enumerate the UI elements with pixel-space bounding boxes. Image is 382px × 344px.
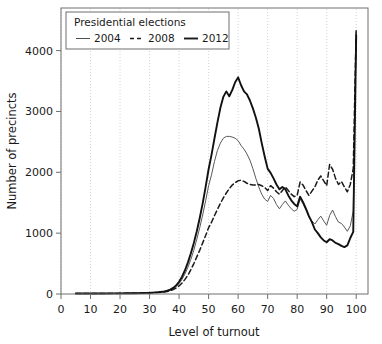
chart-figure: 0102030405060708090100 01000200030004000… bbox=[0, 0, 382, 344]
x-tick-label-100: 100 bbox=[346, 303, 367, 316]
chart-svg: 0102030405060708090100 01000200030004000… bbox=[0, 0, 382, 344]
x-tick-label-60: 60 bbox=[231, 303, 245, 316]
y-tick-label-1000: 1000 bbox=[25, 227, 53, 240]
legend-title: Presidential elections bbox=[74, 16, 186, 28]
legend-label-2012: 2012 bbox=[202, 32, 229, 44]
y-tick-label-0: 0 bbox=[46, 288, 53, 301]
legend-label-2004: 2004 bbox=[94, 32, 121, 44]
y-axis-ticks: 01000200030004000 bbox=[25, 45, 61, 301]
legend-entries: 200420082012 bbox=[76, 32, 229, 44]
x-tick-label-80: 80 bbox=[290, 303, 304, 316]
y-tick-label-3000: 3000 bbox=[25, 105, 53, 118]
x-tick-label-70: 70 bbox=[261, 303, 275, 316]
x-axis-ticks: 0102030405060708090100 bbox=[58, 294, 367, 316]
x-tick-label-40: 40 bbox=[172, 303, 186, 316]
x-tick-label-10: 10 bbox=[84, 303, 98, 316]
chart-legend: Presidential elections 200420082012 bbox=[66, 12, 229, 49]
x-tick-label-20: 20 bbox=[113, 303, 127, 316]
x-tick-label-0: 0 bbox=[58, 303, 65, 316]
x-axis-label: Level of turnout bbox=[168, 325, 260, 339]
x-tick-label-50: 50 bbox=[202, 303, 216, 316]
y-axis-label: Number of precincts bbox=[5, 92, 19, 209]
legend-label-2008: 2008 bbox=[148, 32, 175, 44]
y-tick-label-2000: 2000 bbox=[25, 166, 53, 179]
x-tick-label-90: 90 bbox=[320, 303, 334, 316]
plot-background bbox=[61, 8, 368, 294]
x-tick-label-30: 30 bbox=[143, 303, 157, 316]
y-tick-label-4000: 4000 bbox=[25, 45, 53, 58]
